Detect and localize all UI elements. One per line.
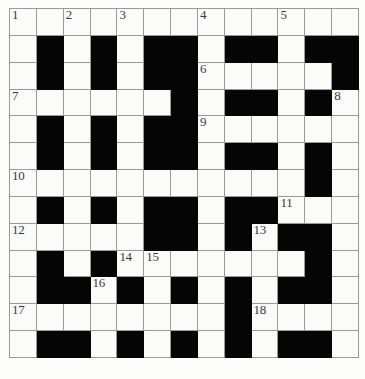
crossword-open-cell[interactable] [305, 304, 332, 331]
crossword-open-cell[interactable] [144, 170, 171, 197]
crossword-open-cell[interactable] [10, 35, 37, 62]
crossword-open-cell[interactable] [251, 250, 278, 277]
crossword-open-cell[interactable] [278, 62, 305, 89]
crossword-open-cell[interactable] [10, 143, 37, 170]
crossword-open-cell[interactable]: 8 [332, 89, 359, 116]
crossword-open-cell[interactable] [63, 116, 90, 143]
crossword-open-cell[interactable] [144, 331, 171, 358]
crossword-open-cell[interactable] [144, 89, 171, 116]
crossword-open-cell[interactable] [197, 277, 224, 304]
crossword-open-cell[interactable] [90, 9, 117, 36]
crossword-open-cell[interactable] [332, 116, 359, 143]
crossword-open-cell[interactable] [197, 170, 224, 197]
crossword-open-cell[interactable] [117, 35, 144, 62]
crossword-open-cell[interactable] [224, 170, 251, 197]
crossword-open-cell[interactable]: 1 [10, 9, 37, 36]
crossword-open-cell[interactable] [278, 250, 305, 277]
crossword-open-cell[interactable] [278, 143, 305, 170]
crossword-open-cell[interactable] [117, 170, 144, 197]
crossword-open-cell[interactable] [332, 143, 359, 170]
crossword-open-cell[interactable] [171, 9, 198, 36]
crossword-open-cell[interactable] [332, 277, 359, 304]
crossword-open-cell[interactable] [117, 196, 144, 223]
crossword-open-cell[interactable] [90, 170, 117, 197]
crossword-open-cell[interactable] [251, 116, 278, 143]
crossword-open-cell[interactable] [332, 196, 359, 223]
crossword-open-cell[interactable] [117, 62, 144, 89]
crossword-open-cell[interactable] [171, 250, 198, 277]
crossword-open-cell[interactable] [171, 170, 198, 197]
crossword-open-cell[interactable] [10, 62, 37, 89]
crossword-open-cell[interactable] [144, 277, 171, 304]
crossword-open-cell[interactable] [36, 89, 63, 116]
crossword-open-cell[interactable] [10, 331, 37, 358]
crossword-open-cell[interactable] [63, 223, 90, 250]
crossword-open-cell[interactable] [224, 9, 251, 36]
crossword-open-cell[interactable] [117, 89, 144, 116]
crossword-open-cell[interactable] [278, 89, 305, 116]
crossword-open-cell[interactable]: 6 [197, 62, 224, 89]
crossword-open-cell[interactable] [278, 35, 305, 62]
crossword-open-cell[interactable]: 11 [278, 196, 305, 223]
crossword-grid[interactable]: 123456789101112131415161718 [9, 8, 359, 358]
crossword-open-cell[interactable] [278, 304, 305, 331]
crossword-open-cell[interactable] [224, 250, 251, 277]
crossword-open-cell[interactable] [10, 277, 37, 304]
crossword-open-cell[interactable] [251, 9, 278, 36]
crossword-open-cell[interactable] [305, 62, 332, 89]
crossword-open-cell[interactable]: 15 [144, 250, 171, 277]
crossword-open-cell[interactable] [251, 170, 278, 197]
crossword-open-cell[interactable] [117, 116, 144, 143]
crossword-open-cell[interactable] [63, 304, 90, 331]
crossword-open-cell[interactable] [63, 250, 90, 277]
crossword-open-cell[interactable] [144, 9, 171, 36]
crossword-open-cell[interactable] [332, 331, 359, 358]
crossword-open-cell[interactable] [278, 170, 305, 197]
crossword-open-cell[interactable] [117, 304, 144, 331]
crossword-open-cell[interactable] [144, 304, 171, 331]
crossword-open-cell[interactable] [197, 331, 224, 358]
crossword-open-cell[interactable]: 4 [197, 9, 224, 36]
crossword-open-cell[interactable] [63, 196, 90, 223]
crossword-open-cell[interactable] [305, 9, 332, 36]
crossword-open-cell[interactable]: 17 [10, 304, 37, 331]
crossword-open-cell[interactable] [197, 196, 224, 223]
crossword-open-cell[interactable]: 5 [278, 9, 305, 36]
crossword-open-cell[interactable] [197, 304, 224, 331]
crossword-open-cell[interactable]: 3 [117, 9, 144, 36]
crossword-open-cell[interactable] [36, 223, 63, 250]
crossword-open-cell[interactable]: 13 [251, 223, 278, 250]
crossword-open-cell[interactable] [90, 331, 117, 358]
crossword-open-cell[interactable]: 7 [10, 89, 37, 116]
crossword-open-cell[interactable] [197, 143, 224, 170]
crossword-open-cell[interactable] [197, 89, 224, 116]
crossword-open-cell[interactable] [36, 9, 63, 36]
crossword-open-cell[interactable]: 10 [10, 170, 37, 197]
crossword-open-cell[interactable] [251, 277, 278, 304]
crossword-open-cell[interactable] [90, 223, 117, 250]
crossword-open-cell[interactable] [251, 331, 278, 358]
crossword-open-cell[interactable] [305, 116, 332, 143]
crossword-open-cell[interactable] [117, 223, 144, 250]
crossword-open-cell[interactable] [10, 250, 37, 277]
crossword-open-cell[interactable] [224, 116, 251, 143]
crossword-open-cell[interactable] [90, 304, 117, 331]
crossword-open-cell[interactable] [332, 304, 359, 331]
crossword-open-cell[interactable] [117, 143, 144, 170]
crossword-open-cell[interactable] [63, 143, 90, 170]
crossword-open-cell[interactable]: 9 [197, 116, 224, 143]
crossword-open-cell[interactable]: 14 [117, 250, 144, 277]
crossword-open-cell[interactable]: 16 [90, 277, 117, 304]
crossword-open-cell[interactable] [197, 223, 224, 250]
crossword-open-cell[interactable] [10, 116, 37, 143]
crossword-open-cell[interactable] [63, 35, 90, 62]
crossword-open-cell[interactable] [197, 35, 224, 62]
crossword-open-cell[interactable] [90, 89, 117, 116]
crossword-open-cell[interactable] [171, 304, 198, 331]
crossword-open-cell[interactable] [251, 62, 278, 89]
crossword-open-cell[interactable] [332, 223, 359, 250]
crossword-open-cell[interactable] [36, 170, 63, 197]
crossword-open-cell[interactable] [36, 304, 63, 331]
crossword-open-cell[interactable] [332, 9, 359, 36]
crossword-open-cell[interactable] [278, 116, 305, 143]
